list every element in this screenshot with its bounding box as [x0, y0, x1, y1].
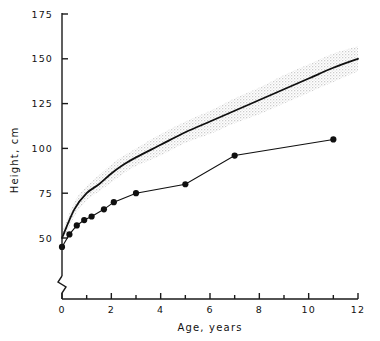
x-tick-label: 0 [58, 304, 65, 315]
y-axis-title: Height, cm [9, 127, 20, 194]
x-tick-label: 12 [351, 304, 365, 315]
patient-data-point [111, 199, 117, 205]
x-tick-label: 4 [157, 304, 164, 315]
y-tick-label: 100 [32, 143, 53, 154]
y-tick-label: 175 [32, 9, 53, 20]
y-tick-label: 150 [32, 53, 53, 64]
x-tick-label: 6 [206, 304, 213, 315]
chart-canvas: 5075100125150175024681012 Age, years Hei… [0, 0, 380, 341]
patient-data-point [66, 231, 72, 237]
patient-data-point [101, 206, 107, 212]
patient-data-point [89, 213, 95, 219]
x-tick-label: 10 [302, 304, 316, 315]
patient-data-point [232, 152, 238, 158]
patient-data-point [330, 136, 336, 142]
patient-data-point [182, 181, 188, 187]
patient-data-point [133, 190, 139, 196]
x-tick-label: 8 [256, 304, 263, 315]
y-tick-label: 75 [39, 188, 53, 199]
growth-chart-figure: 5075100125150175024681012 Age, years Hei… [0, 0, 380, 341]
x-axis-title: Age, years [177, 322, 242, 333]
patient-series [59, 136, 337, 250]
y-tick-label: 50 [39, 233, 53, 244]
y-tick-label: 125 [32, 98, 53, 109]
axes-group [58, 13, 358, 299]
tick-labels-group: 5075100125150175024681012 [32, 9, 366, 316]
patient-data-point [74, 222, 80, 228]
x-tick-label: 2 [108, 304, 115, 315]
patient-data-point [81, 217, 87, 223]
